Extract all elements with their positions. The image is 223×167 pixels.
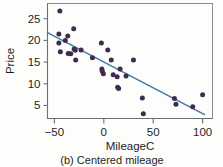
plot-canvas: 510152025−50050100 Price MileageC (b) Ce… — [0, 0, 223, 167]
data-point — [118, 67, 123, 72]
figure-caption: (b) Centered mileage — [60, 154, 163, 166]
data-point — [79, 47, 84, 52]
y-axis-label: Price — [4, 48, 16, 74]
data-point — [116, 86, 121, 91]
scatter-plot-figure: 510152025−50050100 Price MileageC (b) Ce… — [0, 0, 223, 167]
x-axis-label: MileageC — [106, 140, 155, 152]
x-tick-label: 50 — [147, 126, 160, 138]
data-point — [58, 49, 63, 54]
data-point — [200, 92, 205, 97]
x-tick-label: 100 — [193, 126, 212, 138]
x-tick-label: −50 — [45, 126, 65, 138]
data-point — [190, 104, 195, 109]
x-tick-label: 0 — [101, 126, 107, 138]
data-point — [73, 57, 78, 62]
y-tick-label: 15 — [28, 56, 41, 68]
data-point — [115, 74, 120, 79]
data-point — [141, 111, 146, 116]
data-point — [90, 55, 95, 60]
data-point — [173, 102, 178, 107]
data-point — [131, 57, 136, 62]
y-tick-label: 5 — [34, 99, 40, 111]
data-point — [109, 57, 114, 62]
data-point — [140, 96, 145, 101]
data-point — [73, 48, 78, 53]
data-point — [68, 51, 73, 56]
data-point — [172, 96, 177, 101]
y-tick-label: 10 — [28, 78, 41, 90]
plot-frame — [48, 4, 213, 119]
data-points — [56, 8, 205, 116]
y-tick-label: 20 — [28, 34, 41, 46]
y-tick-label: 25 — [28, 13, 41, 25]
data-point — [99, 40, 104, 45]
data-point — [63, 38, 68, 43]
data-point — [56, 40, 61, 45]
data-point — [71, 26, 76, 31]
data-point — [105, 47, 110, 52]
data-point — [56, 31, 61, 36]
data-point — [124, 73, 129, 78]
data-point — [101, 71, 106, 76]
data-point — [65, 34, 70, 39]
data-point — [57, 8, 62, 13]
